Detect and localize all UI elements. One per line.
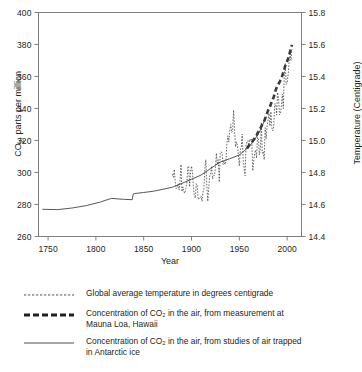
y-axis-left-ticklabel: 400 xyxy=(0,8,32,18)
series-thin-solid xyxy=(42,117,266,210)
x-axis-ticklabel: 1900 xyxy=(172,244,212,254)
legend-label-line: Mauna Loa, Hawaii xyxy=(86,319,284,330)
series-thick-dashed xyxy=(247,45,292,149)
series-fine-dotted xyxy=(172,49,292,201)
legend-label-line: Global average temperature in degrees ce… xyxy=(86,288,273,299)
legend-label-line: in Antarctic ice xyxy=(86,347,302,358)
y-axis-right-ticklabel: 15.6 xyxy=(309,40,326,50)
chart-canvas xyxy=(0,0,360,280)
y-axis-right-title: Temperature (Centigrade) xyxy=(352,38,362,188)
x-axis-ticklabel: 1750 xyxy=(28,244,68,254)
y-axis-right-ticklabel: 14.8 xyxy=(309,168,326,178)
x-axis-ticklabel: 1850 xyxy=(124,244,164,254)
legend-label: Global average temperature in degrees ce… xyxy=(76,288,273,299)
x-axis-ticklabel: 2000 xyxy=(267,244,307,254)
y-axis-left-title: CO2, parts per million xyxy=(13,39,25,189)
legend-label: Concentration of CO₂ in the air, from me… xyxy=(76,308,284,330)
y-axis-right-ticklabel: 15.2 xyxy=(309,104,326,114)
legend-item: Global average temperature in degrees ce… xyxy=(0,288,360,302)
x-axis-ticklabel: 1800 xyxy=(76,244,116,254)
x-axis-title: Year xyxy=(38,256,302,266)
legend-swatch-fine-dotted xyxy=(24,288,76,302)
y-axis-right-ticklabel: 15.8 xyxy=(309,8,326,18)
y-axis-right-ticklabel: 15.0 xyxy=(309,136,326,146)
y-axis-left-ticklabel: 280 xyxy=(0,200,32,210)
legend-label-line: Concentration of CO₂ in the air, from me… xyxy=(86,308,284,319)
chart-plot-area: 260280300320340360380400 14.414.614.815.… xyxy=(0,0,360,280)
legend-item: Concentration of CO₂ in the air, from me… xyxy=(0,308,360,330)
chart-legend: Global average temperature in degrees ce… xyxy=(0,288,360,364)
legend-item: Concentration of CO₂ in the air, from st… xyxy=(0,336,360,358)
y-axis-left-ticklabel: 260 xyxy=(0,232,32,242)
y-axis-right-ticklabel: 14.4 xyxy=(309,232,326,242)
y-axis-right-ticklabel: 15.4 xyxy=(309,72,326,82)
y-axis-right-ticklabel: 14.6 xyxy=(309,200,326,210)
legend-label: Concentration of CO₂ in the air, from st… xyxy=(76,336,302,358)
x-axis-ticklabel: 1950 xyxy=(219,244,259,254)
legend-swatch-thick-dashed xyxy=(24,308,76,322)
legend-swatch-thin-solid xyxy=(24,336,76,350)
legend-label-line: Concentration of CO₂ in the air, from st… xyxy=(86,336,302,347)
